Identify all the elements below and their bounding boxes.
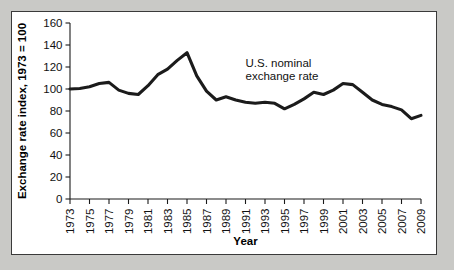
y-tick-group: 020406080100120140160	[43, 17, 70, 205]
x-tick-label: 1975	[84, 209, 96, 235]
x-tick-label: 1981	[142, 209, 154, 235]
x-tick-label: 1987	[201, 209, 213, 235]
x-tick-label: 1995	[279, 209, 291, 235]
x-tick-label: 2009	[415, 209, 427, 235]
x-tick-label: 1999	[318, 209, 330, 235]
x-tick-label: 1973	[64, 209, 76, 235]
figure-card: 020406080100120140160 197319751977197919…	[11, 11, 437, 255]
x-axis-title: Year	[233, 235, 258, 247]
annotation-line: exchange rate	[246, 70, 319, 82]
y-axis: 020406080100120140160	[43, 17, 70, 205]
y-tick-label: 120	[43, 61, 62, 73]
x-tick-label: 1991	[240, 209, 252, 235]
x-tick-label: 1985	[181, 209, 193, 235]
exchange-rate-line-chart: 020406080100120140160 197319751977197919…	[12, 12, 436, 254]
x-tick-label: 2001	[337, 209, 349, 235]
x-tick-label: 1989	[220, 209, 232, 235]
x-tick-group: 1973197519771979198119831985198719891991…	[64, 199, 427, 234]
x-tick-label: 1997	[298, 209, 310, 235]
y-tick-label: 80	[50, 105, 63, 117]
y-tick-label: 140	[43, 39, 62, 51]
x-tick-label: 2007	[396, 209, 408, 235]
y-tick-label: 100	[43, 83, 62, 95]
y-tick-label: 0	[56, 193, 62, 205]
x-tick-label: 1993	[259, 209, 271, 235]
annotation-group: U.S. nominalexchange rate	[246, 57, 319, 82]
annotation-line: U.S. nominal	[246, 57, 312, 69]
x-axis: 1973197519771979198119831985198719891991…	[64, 199, 427, 234]
y-tick-label: 40	[50, 149, 63, 161]
x-tick-label: 2005	[376, 209, 388, 235]
x-tick-label: 1979	[123, 209, 135, 235]
y-tick-label: 20	[50, 171, 63, 183]
x-tick-label: 1983	[162, 209, 174, 235]
x-tick-label: 2003	[357, 209, 369, 235]
y-tick-label: 60	[50, 127, 63, 139]
y-axis-title: Exchange rate index, 1973 = 100	[16, 23, 28, 199]
x-tick-label: 1977	[103, 209, 115, 235]
y-tick-label: 160	[43, 17, 62, 29]
